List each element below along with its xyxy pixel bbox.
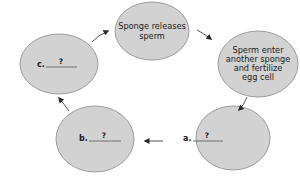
node-a-blank: a. ?: [183, 106, 270, 170]
node-text-line: Sponge releases: [118, 21, 186, 31]
node-label-a: a.: [183, 134, 191, 143]
blank-question-mark: ?: [102, 131, 106, 140]
node-text-line: sperm: [139, 31, 165, 41]
arrow-top-to-right-icon: [197, 30, 211, 39]
blank-question-mark: ?: [59, 57, 63, 66]
node-text-line: egg cell: [242, 72, 274, 82]
node-label-b: b.: [79, 134, 88, 143]
node-sperm-fertilize-egg: Sperm enter another sponge and fertilize…: [218, 31, 298, 97]
node-sponge-releases-sperm: Sponge releases sperm: [115, 2, 189, 60]
blank-question-mark: ?: [205, 131, 209, 140]
node-label-c: c.: [37, 60, 45, 69]
node-c-blank: c. ?: [20, 34, 98, 94]
arrow-b-to-c-icon: [59, 98, 69, 111]
sponge-life-cycle-diagram: Sponge releases sperm Sperm enter anothe…: [0, 0, 300, 177]
node-b-blank: b. ?: [56, 106, 134, 172]
arrow-c-to-top-icon: [92, 31, 108, 42]
